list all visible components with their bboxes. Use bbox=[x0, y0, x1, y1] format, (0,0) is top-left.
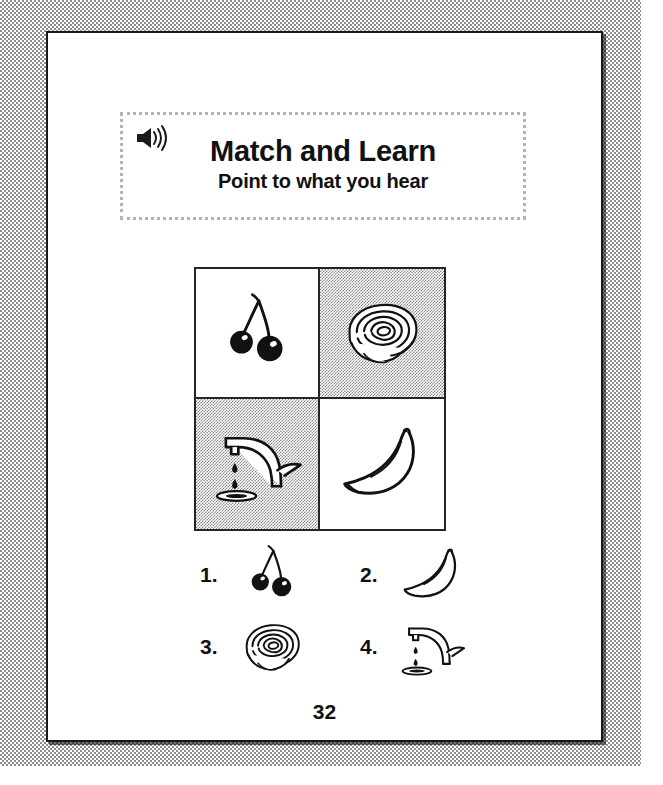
page-number: 32 bbox=[48, 700, 601, 724]
page-title: Match and Learn bbox=[123, 135, 523, 168]
option-art-3 bbox=[234, 617, 310, 677]
banana-icon bbox=[336, 423, 428, 505]
cherries-icon bbox=[216, 292, 298, 374]
grid-cell-bottom-left[interactable] bbox=[196, 399, 320, 529]
rose-icon bbox=[237, 615, 307, 679]
faucet-icon bbox=[208, 424, 306, 504]
option-number-4: 4. bbox=[360, 635, 386, 659]
page-subtitle: Point to what you hear bbox=[123, 170, 523, 193]
grid-cell-bottom-right[interactable] bbox=[320, 399, 444, 529]
banana-icon bbox=[398, 545, 466, 605]
option-item-2[interactable]: 2. bbox=[360, 545, 470, 605]
worksheet-screenshot: Match and Learn Point to what you hear bbox=[0, 0, 663, 785]
option-item-3[interactable]: 3. bbox=[200, 617, 310, 677]
header-text-block: Match and Learn Point to what you hear bbox=[123, 135, 523, 193]
grid-cell-top-right[interactable] bbox=[320, 269, 444, 399]
instruction-header-box: Match and Learn Point to what you hear bbox=[120, 112, 526, 220]
cherries-icon bbox=[241, 544, 303, 606]
faucet-icon bbox=[396, 618, 468, 677]
picture-choice-grid bbox=[194, 267, 446, 531]
option-number-1: 1. bbox=[200, 563, 226, 587]
worksheet-page: Match and Learn Point to what you hear bbox=[46, 31, 603, 742]
grid-cell-top-left[interactable] bbox=[196, 269, 320, 399]
option-item-1[interactable]: 1. bbox=[200, 545, 310, 605]
option-item-4[interactable]: 4. bbox=[360, 617, 470, 677]
option-art-4 bbox=[394, 617, 470, 677]
rose-icon bbox=[337, 292, 427, 374]
option-number-3: 3. bbox=[200, 635, 226, 659]
option-art-2 bbox=[394, 545, 470, 605]
option-art-1 bbox=[234, 545, 310, 605]
answer-options-list: 1. 2. bbox=[188, 545, 488, 685]
option-number-2: 2. bbox=[360, 563, 386, 587]
